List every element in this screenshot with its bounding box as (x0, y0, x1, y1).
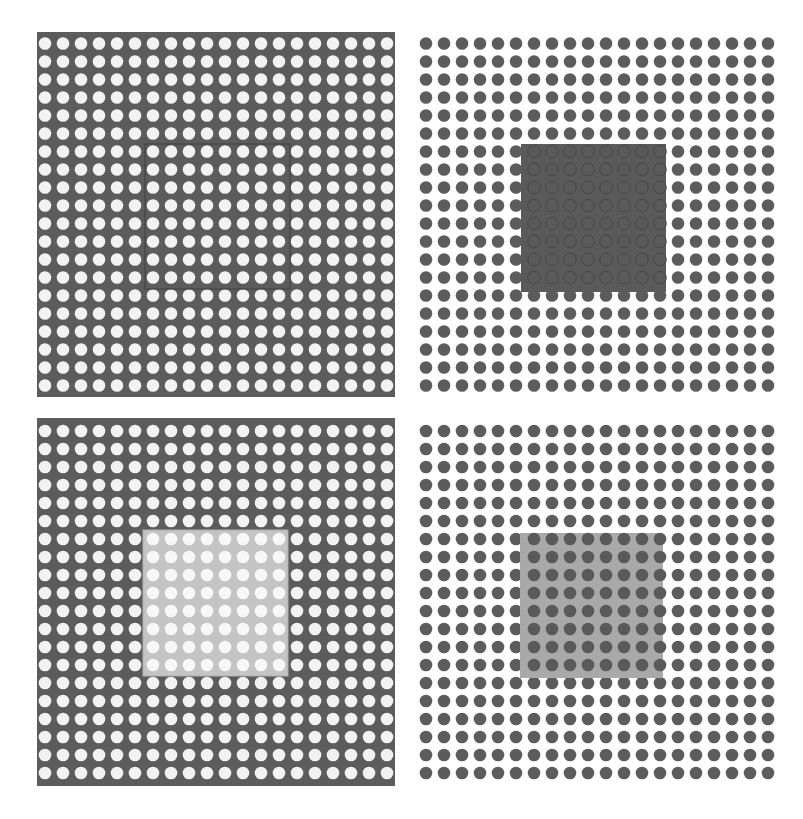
panel-bottom-right (418, 418, 776, 786)
panel-background (37, 32, 395, 397)
panel-top-right (418, 32, 776, 397)
panel-bottom-left (37, 418, 395, 786)
dot-lattice (418, 32, 776, 397)
dot-lattice (418, 418, 776, 786)
dot-lattice (37, 32, 395, 397)
dot-lattice (37, 418, 395, 786)
inner-square (143, 530, 288, 676)
panel-top-left (37, 32, 395, 397)
